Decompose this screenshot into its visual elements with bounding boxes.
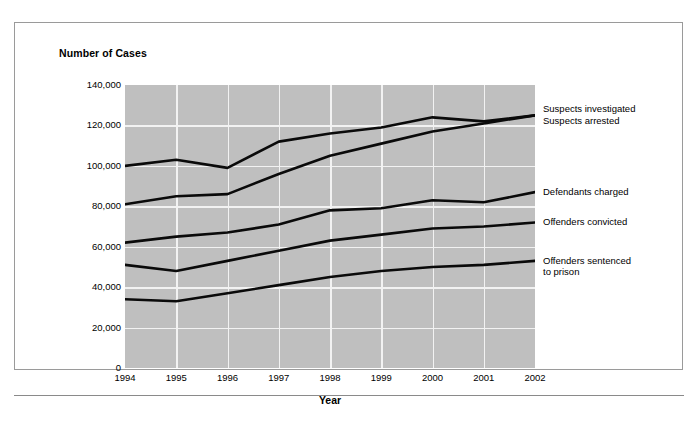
series-labels: Suspects investigatedSuspects arrestedDe… [543, 85, 693, 368]
series-label: Offenders convicted [543, 216, 627, 228]
figure-frame: Number of Cases 140,000120,000100,00080,… [14, 22, 683, 370]
series-lines [125, 85, 535, 368]
x-axis-tick-label: 1996 [205, 372, 251, 383]
x-axis-tick-label: 1995 [153, 372, 199, 383]
series-line [125, 115, 535, 204]
x-axis-tick-label: 2000 [410, 372, 456, 383]
series-label: Suspects arrested [543, 115, 620, 127]
bottom-rule [14, 395, 684, 396]
x-axis-tick-label: 1998 [307, 372, 353, 383]
y-axis-tick-label: 20,000 [57, 323, 121, 333]
series-label: Defendants charged [543, 186, 629, 198]
x-axis-tick-label: 1994 [102, 372, 148, 383]
series-line [125, 192, 535, 243]
y-axis-tick-label: 40,000 [57, 282, 121, 292]
y-axis-tick-label: 60,000 [57, 242, 121, 252]
x-axis-tick-labels: 199419951996199719981999200020012002 [125, 372, 535, 388]
y-axis-tick-label: 80,000 [57, 201, 121, 211]
plot-area [125, 85, 535, 368]
x-axis-tick-label: 1999 [358, 372, 404, 383]
series-line [125, 261, 535, 301]
x-axis-tick-label: 2001 [461, 372, 507, 383]
x-axis-tick-label: 2002 [512, 372, 558, 383]
series-label: Suspects investigated [543, 103, 635, 115]
x-axis-tick-label: 1997 [256, 372, 302, 383]
y-axis-tick-label: 140,000 [57, 80, 121, 90]
series-line [125, 115, 535, 168]
series-line [125, 222, 535, 271]
y-axis-tick-label: 100,000 [57, 161, 121, 171]
y-axis-tick-labels: 140,000120,000100,00080,00060,00040,0002… [55, 85, 121, 368]
y-axis-title: Number of Cases [59, 47, 147, 59]
series-label: Offenders sentenced to prison [543, 255, 631, 278]
y-axis-tick-label: 120,000 [57, 120, 121, 130]
